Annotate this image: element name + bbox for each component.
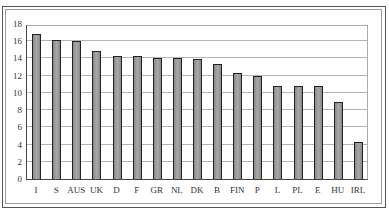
bar-pl	[294, 86, 303, 179]
y-tick-label: 2	[4, 157, 22, 167]
bar-p	[253, 76, 262, 179]
y-tick-label: 10	[4, 88, 22, 98]
bar-gr	[153, 58, 162, 179]
bar-fin	[233, 73, 242, 179]
bar-d	[113, 56, 122, 179]
y-tick-label: 4	[4, 140, 22, 150]
bar-hu	[334, 102, 343, 180]
y-tick-label: 12	[4, 71, 22, 81]
bar-l	[273, 86, 282, 179]
bar-nl	[173, 58, 182, 179]
y-tick-label: 14	[4, 53, 22, 63]
y-tick-label: 16	[4, 36, 22, 46]
bar-i	[32, 34, 41, 179]
bar-b	[213, 64, 222, 179]
plot-area	[26, 25, 368, 180]
bar-s	[52, 40, 61, 180]
bar-f	[133, 56, 142, 179]
bar-irl	[354, 142, 363, 179]
bar-uk	[92, 51, 101, 179]
bar-aus	[72, 41, 81, 179]
y-tick-label: 18	[4, 19, 22, 29]
bar-dk	[193, 59, 202, 179]
y-tick-label: 6	[4, 122, 22, 132]
bar-e	[314, 86, 323, 179]
x-tick-label: IRL	[346, 185, 370, 195]
y-tick-label: 0	[4, 174, 22, 184]
y-tick-label: 8	[4, 105, 22, 115]
